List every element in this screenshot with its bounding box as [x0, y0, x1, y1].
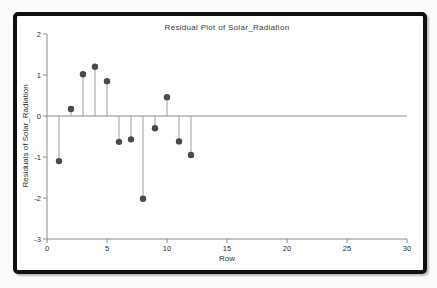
y-tick-label: -2: [34, 194, 41, 203]
x-tick-label: 25: [343, 244, 351, 253]
plot-area: 210-1-2-3051015202530: [17, 16, 423, 270]
data-point: [92, 64, 98, 70]
data-point: [164, 94, 170, 100]
x-tick-label: 15: [223, 244, 231, 253]
y-tick-label: 1: [37, 71, 41, 80]
data-point: [68, 106, 74, 112]
data-point: [56, 158, 62, 164]
y-tick-label: 0: [37, 112, 41, 121]
x-tick-label: 0: [45, 244, 49, 253]
data-point: [116, 139, 122, 145]
chart-frame: Residual Plot of Solar_Radiation 210-1-2…: [13, 12, 427, 274]
data-point: [152, 125, 158, 131]
y-tick-label: -1: [34, 153, 41, 162]
data-point: [128, 136, 134, 142]
data-point: [188, 152, 194, 158]
x-tick-label: 20: [283, 244, 291, 253]
x-axis-title: Row: [47, 254, 407, 263]
y-axis-title: Residuals of Solar_Radiation: [21, 34, 33, 239]
y-tick-label: 2: [37, 30, 41, 39]
data-point: [80, 71, 86, 77]
x-tick-label: 30: [403, 244, 411, 253]
data-point: [104, 78, 110, 84]
data-point: [176, 138, 182, 144]
x-tick-label: 5: [105, 244, 109, 253]
data-point: [140, 196, 146, 202]
x-tick-label: 10: [163, 244, 171, 253]
y-tick-label: -3: [34, 235, 41, 244]
